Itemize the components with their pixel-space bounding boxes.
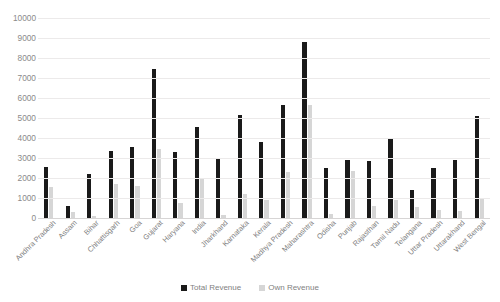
bar-total-revenue[interactable] [324, 168, 328, 218]
legend-item[interactable]: Total Revenue [181, 283, 241, 292]
y-axis-tick-label: 5000 [2, 114, 36, 122]
bar-own-revenue[interactable] [372, 206, 376, 218]
bar-own-revenue[interactable] [264, 200, 268, 218]
bar-own-revenue[interactable] [49, 187, 53, 218]
bar-total-revenue[interactable] [259, 142, 263, 218]
legend-label: Total Revenue [190, 283, 241, 292]
revenue-bar-chart: 0100020003000400050006000700080009000100… [0, 0, 500, 302]
bar-total-revenue[interactable] [66, 206, 70, 218]
bar-total-revenue[interactable] [152, 69, 156, 218]
legend-swatch-icon [259, 285, 265, 291]
bar-total-revenue[interactable] [87, 174, 91, 218]
bar-own-revenue[interactable] [394, 200, 398, 218]
gridline [38, 98, 490, 99]
bar-total-revenue[interactable] [475, 116, 479, 218]
legend-item[interactable]: Own Revenue [259, 283, 319, 292]
bar-total-revenue[interactable] [44, 167, 48, 218]
bar-total-revenue[interactable] [302, 42, 306, 218]
y-axis-tick-label: 2000 [2, 174, 36, 182]
y-axis-tick-label: 6000 [2, 94, 36, 102]
bar-total-revenue[interactable] [195, 127, 199, 218]
bar-own-revenue[interactable] [458, 211, 462, 218]
y-axis-tick-label: 1000 [2, 194, 36, 202]
gridline [38, 118, 490, 119]
bar-own-revenue[interactable] [135, 186, 139, 218]
y-axis: 0100020003000400050006000700080009000100… [0, 18, 36, 218]
bar-total-revenue[interactable] [410, 190, 414, 218]
bar-total-revenue[interactable] [345, 160, 349, 218]
bar-total-revenue[interactable] [109, 151, 113, 218]
bar-own-revenue[interactable] [415, 207, 419, 218]
gridline [38, 198, 490, 199]
bar-own-revenue[interactable] [157, 149, 161, 218]
gridline [38, 18, 490, 19]
bar-own-revenue[interactable] [114, 184, 118, 218]
bar-total-revenue[interactable] [281, 105, 285, 218]
y-axis-tick-label: 4000 [2, 134, 36, 142]
legend-label: Own Revenue [268, 283, 319, 292]
gridline [38, 58, 490, 59]
bar-own-revenue[interactable] [308, 105, 312, 218]
bar-own-revenue[interactable] [178, 203, 182, 218]
bar-total-revenue[interactable] [173, 152, 177, 218]
gridline [38, 158, 490, 159]
y-axis-tick-label: 9000 [2, 34, 36, 42]
bar-own-revenue[interactable] [480, 198, 484, 218]
bar-total-revenue[interactable] [216, 158, 220, 218]
gridline [38, 38, 490, 39]
bar-total-revenue[interactable] [238, 115, 242, 218]
y-axis-tick-label: 10000 [2, 14, 36, 22]
y-axis-tick-label: 0 [2, 214, 36, 222]
bar-total-revenue[interactable] [431, 168, 435, 218]
x-axis-labels: Andhra PradeshAssamBiharChhattisgarhGoaG… [38, 219, 490, 281]
y-axis-tick-label: 8000 [2, 54, 36, 62]
chart-legend: Total RevenueOwn Revenue [0, 283, 500, 292]
gridline [38, 178, 490, 179]
gridline [38, 138, 490, 139]
y-axis-tick-label: 7000 [2, 74, 36, 82]
y-axis-tick-label: 3000 [2, 154, 36, 162]
gridline [38, 78, 490, 79]
bar-own-revenue[interactable] [437, 210, 441, 218]
legend-swatch-icon [181, 285, 187, 291]
bar-total-revenue[interactable] [453, 160, 457, 218]
plot-area [38, 18, 490, 218]
bar-total-revenue[interactable] [367, 161, 371, 218]
